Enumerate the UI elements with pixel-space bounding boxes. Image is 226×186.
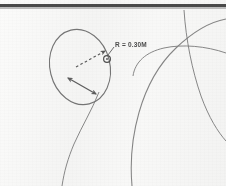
radius-dimension-label: R = 0.30M	[115, 41, 147, 49]
radius-dimension-arrow	[76, 51, 105, 67]
right-large-arc	[133, 46, 226, 76]
radius-center-dot	[106, 58, 108, 60]
span-dimension-arrow	[68, 78, 96, 94]
figure-canvas: R = 0.30M Scanned engineering sketch	[0, 0, 226, 186]
primary-oval	[42, 23, 119, 111]
technical-drawing	[0, 0, 226, 186]
label-leader-line	[108, 47, 114, 55]
lower-left-arc	[62, 92, 99, 186]
right-vertical-arc	[184, 10, 226, 141]
